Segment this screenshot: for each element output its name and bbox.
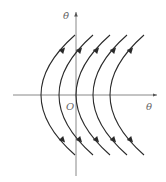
arrow-icon	[76, 46, 84, 54]
arrow-icon	[93, 46, 101, 54]
arrow-icon	[76, 136, 84, 144]
upper-flow-arrows	[59, 46, 135, 54]
arrow-icon	[110, 136, 118, 144]
phase-portrait-diagram: θ̇ θ O	[0, 0, 166, 182]
arrow-icon	[110, 46, 118, 54]
arrow-icon	[127, 46, 135, 54]
arrow-icon	[127, 136, 135, 144]
arrow-icon	[93, 136, 101, 144]
origin-label: O	[66, 101, 74, 112]
theta-dot-axis-label: θ̇	[63, 10, 69, 21]
theta-axis-label: θ	[146, 101, 152, 112]
lower-flow-arrows	[59, 136, 135, 144]
